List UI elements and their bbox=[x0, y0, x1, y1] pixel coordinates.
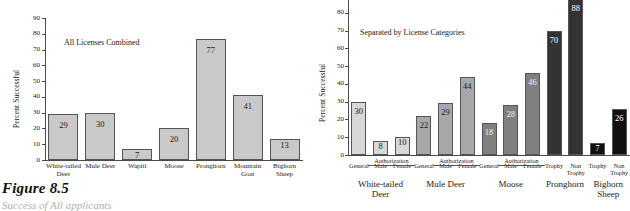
left-y-tick-mark bbox=[42, 50, 45, 51]
right-y-tick-label: 0 bbox=[326, 151, 344, 159]
left-y-tick-mark bbox=[42, 113, 45, 114]
bar-value-label: 88 bbox=[562, 4, 590, 13]
left-y-tick-label: 70 bbox=[22, 45, 40, 53]
right-y-tick-mark bbox=[345, 48, 348, 49]
bar-value-label: 10 bbox=[388, 138, 416, 147]
bar bbox=[196, 39, 226, 160]
right-y-tick-label: 30 bbox=[326, 97, 344, 105]
right-chart-y-axis-title: Percent Successful bbox=[318, 64, 327, 122]
right-y-tick-mark bbox=[345, 155, 348, 156]
right-y-tick-mark bbox=[345, 66, 348, 67]
bar-value-label: 44 bbox=[453, 82, 481, 91]
left-y-tick-label: 20 bbox=[22, 124, 40, 132]
left-y-tick-label: 30 bbox=[22, 108, 40, 116]
chart-separated-by-license-categories: Percent Successful Separated by License … bbox=[310, 0, 630, 211]
bar-value-label: 28 bbox=[497, 110, 525, 119]
left-y-tick-mark bbox=[42, 34, 45, 35]
bar-value-label: 7 bbox=[583, 144, 611, 153]
left-y-tick-label: 60 bbox=[22, 61, 40, 69]
species-group-label: Bighorn Sheep bbox=[573, 179, 630, 199]
bar-value-label: 30 bbox=[345, 107, 373, 116]
authorization-bracket-label: Authorization bbox=[365, 157, 417, 164]
bar-value-label: 30 bbox=[80, 120, 120, 129]
bar-value-label: 7 bbox=[117, 151, 157, 160]
right-chart-title: Separated by License Categories bbox=[360, 28, 465, 37]
figure-caption-number: Figure 8.5 bbox=[2, 180, 69, 197]
right-y-tick-mark bbox=[345, 13, 348, 14]
bar-value-label: 22 bbox=[410, 121, 438, 130]
species-group-label: White-tailed Deer bbox=[346, 179, 416, 199]
bar bbox=[547, 31, 562, 155]
right-y-tick-label: 40 bbox=[326, 79, 344, 87]
bar-value-label: 18 bbox=[475, 128, 503, 137]
left-y-tick-mark bbox=[42, 81, 45, 82]
bar bbox=[568, 0, 583, 155]
bar-value-label: 77 bbox=[191, 46, 231, 55]
bar bbox=[159, 128, 189, 160]
x-axis-category-label: Non Trophy bbox=[605, 163, 630, 177]
left-y-tick-mark bbox=[42, 65, 45, 66]
authorization-bracket-rule bbox=[498, 165, 546, 166]
figure-8-5: Percent Successful All Licenses Combined… bbox=[0, 0, 630, 211]
left-y-tick-label: 50 bbox=[22, 77, 40, 85]
right-y-tick-label: 80 bbox=[326, 8, 344, 16]
chart-all-licenses-combined: Percent Successful All Licenses Combined… bbox=[0, 0, 310, 180]
authorization-bracket-rule bbox=[433, 165, 481, 166]
left-y-tick-label: 40 bbox=[22, 92, 40, 100]
left-y-tick-label: 80 bbox=[22, 29, 40, 37]
left-y-tick-mark bbox=[42, 97, 45, 98]
left-y-tick-label: 90 bbox=[22, 14, 40, 22]
right-y-tick-mark bbox=[345, 84, 348, 85]
x-axis-category-label: Bighorn Sheep bbox=[259, 163, 311, 179]
right-chart-y-axis-line bbox=[348, 0, 349, 155]
right-y-tick-mark bbox=[345, 31, 348, 32]
left-chart-y-axis-line bbox=[45, 18, 46, 160]
left-chart-title: All Licenses Combined bbox=[64, 38, 140, 47]
right-y-tick-label: 60 bbox=[326, 44, 344, 52]
right-y-tick-label: 50 bbox=[326, 62, 344, 70]
authorization-bracket-label: Authorization bbox=[430, 157, 482, 164]
bar-value-label: 29 bbox=[432, 108, 460, 117]
left-y-tick-label: 10 bbox=[22, 140, 40, 148]
species-group-label: Mule Deer bbox=[411, 179, 481, 189]
bar-value-label: 26 bbox=[605, 114, 630, 123]
left-y-tick-mark bbox=[42, 160, 45, 161]
bar-value-label: 70 bbox=[540, 36, 568, 45]
figure-caption-text: Success of All applicants bbox=[2, 199, 202, 211]
bar-value-label: 20 bbox=[154, 135, 194, 144]
bar-value-label: 29 bbox=[43, 121, 83, 130]
left-chart-x-axis-line bbox=[45, 160, 303, 161]
bar-value-label: 13 bbox=[265, 141, 305, 150]
authorization-bracket-label: Authorization bbox=[496, 157, 548, 164]
right-y-tick-label: 70 bbox=[326, 26, 344, 34]
right-y-tick-mark bbox=[345, 102, 348, 103]
left-y-tick-mark bbox=[42, 18, 45, 19]
left-chart-y-axis-title: Percent Successful bbox=[12, 70, 21, 128]
bar-value-label: 46 bbox=[518, 78, 546, 87]
left-y-tick-mark bbox=[42, 144, 45, 145]
right-y-tick-mark bbox=[345, 119, 348, 120]
right-chart-x-axis-line bbox=[348, 155, 630, 156]
right-y-tick-label: 10 bbox=[326, 133, 344, 141]
bar-value-label: 41 bbox=[228, 102, 268, 111]
right-y-tick-mark bbox=[345, 137, 348, 138]
right-y-tick-label: 20 bbox=[326, 115, 344, 123]
authorization-bracket-rule bbox=[368, 165, 416, 166]
